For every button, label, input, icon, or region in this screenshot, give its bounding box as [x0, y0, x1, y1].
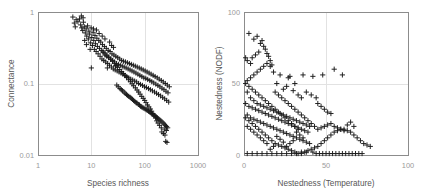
y-tick-label: 50 — [232, 79, 240, 88]
x-axis-title: Nestedness (Temperature) — [278, 179, 375, 188]
y-axis-title: Nestedness (NODF) — [215, 46, 224, 120]
x-tick-label: 0 — [242, 161, 246, 170]
x-axis-title: Species richness — [87, 179, 149, 188]
data-points — [70, 13, 172, 145]
x-tick-label: 10 — [87, 161, 95, 170]
x-tick-label: 1000 — [190, 161, 206, 170]
y-axis-title: Connectance — [7, 59, 16, 108]
y-tick-label: 1 — [30, 8, 34, 17]
figure-container: 11010010000.010.11Species richnessConnec… — [0, 0, 424, 196]
x-tick-label: 50 — [322, 161, 330, 170]
y-tick-label: 0.01 — [20, 151, 34, 160]
x-tick-label: 100 — [402, 161, 414, 170]
gridlines — [244, 12, 408, 155]
x-tick-label: 1 — [36, 161, 40, 170]
right-plot-svg: 050100050100Nestedness (Temperature)Nest… — [212, 0, 424, 196]
y-tick-label: 100 — [228, 8, 240, 17]
gridlines — [38, 12, 198, 155]
x-tick-label: 100 — [138, 161, 150, 170]
left-plot-svg: 11010010000.010.11Species richnessConnec… — [0, 0, 212, 196]
y-tick-label: 0 — [236, 151, 240, 160]
scatter-panel-species-connectance: 11010010000.010.11Species richnessConnec… — [0, 0, 212, 196]
data-points — [243, 31, 373, 156]
y-tick-label: 0.1 — [24, 79, 34, 88]
scatter-panel-nestedness: 050100050100Nestedness (Temperature)Nest… — [212, 0, 424, 196]
